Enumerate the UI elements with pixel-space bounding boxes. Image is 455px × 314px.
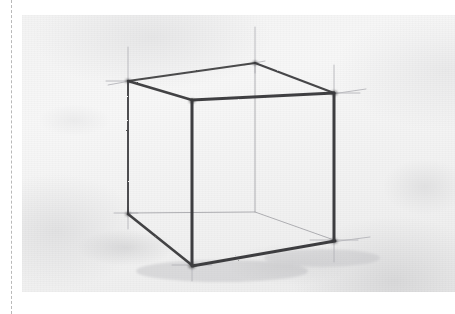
edge-bottom-left-to-bottom-front [128, 214, 193, 266]
edge-top-back-to-top-right [255, 63, 334, 93]
vertex-dot-top-back [252, 61, 257, 65]
edge-top-back-to-top-left [128, 63, 255, 81]
vertex-dot-bottom-front [188, 263, 195, 269]
edge-top-left-to-top-front [128, 81, 192, 100]
edge-top-right-to-top-front [192, 93, 334, 100]
vertex-dot-bottom-left [125, 212, 130, 216]
vertex-dot-top-right [331, 90, 338, 95]
visible-edges-group [128, 63, 335, 266]
page-edge-mark [0, 259, 7, 270]
hidden-edge-bottom-back-to-right [255, 212, 334, 240]
vertex-dot-top-left [125, 79, 130, 83]
dashed-trim-guide-line [11, 0, 12, 314]
pencil-cube-drawing [22, 15, 455, 292]
page-canvas [0, 0, 455, 314]
vertex-dot-top-front [189, 99, 195, 104]
drawing-paper-photo [22, 15, 455, 292]
vertex-dot-bottom-right [331, 238, 338, 243]
